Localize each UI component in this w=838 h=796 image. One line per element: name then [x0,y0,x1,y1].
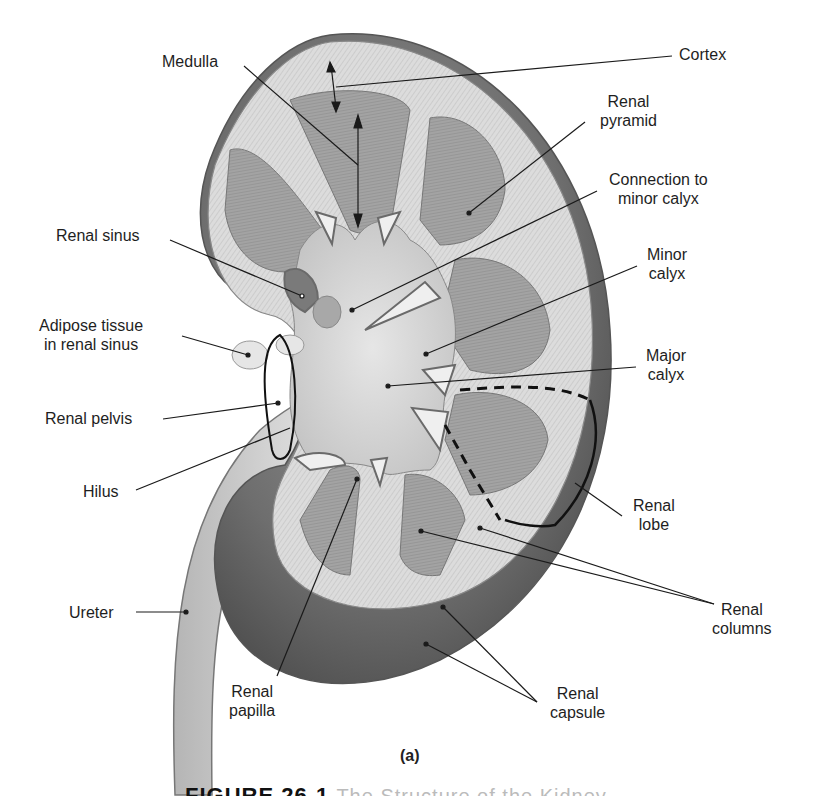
kidney-illustration [0,0,838,796]
label-cortex: Cortex [679,45,726,64]
label-renal-lobe: Renal lobe [633,496,675,534]
label-renal-pelvis: Renal pelvis [45,409,132,428]
label-major-calyx: Major calyx [646,346,686,384]
minor-calyx-connection [313,296,341,328]
label-medulla: Medulla [162,52,218,71]
kidney-diagram: Medulla Cortex Renal pyramid Connection … [0,0,838,796]
label-connection-minor-calyx: Connection to minor calyx [609,170,708,208]
panel-label: (a) [400,747,420,765]
label-hilus: Hilus [83,482,119,501]
label-ureter: Ureter [69,603,113,622]
label-renal-columns: Renal columns [712,600,772,638]
label-renal-sinus: Renal sinus [56,226,140,245]
label-minor-calyx: Minor calyx [647,245,687,283]
label-adipose-tissue: Adipose tissue in renal sinus [39,316,143,354]
label-renal-pyramid: Renal pyramid [600,92,657,130]
figure-caption: FIGURE 26-1 The Structure of the Kidney [185,781,607,796]
label-renal-capsule: Renal capsule [550,684,605,722]
label-renal-papilla: Renal papilla [229,682,275,720]
